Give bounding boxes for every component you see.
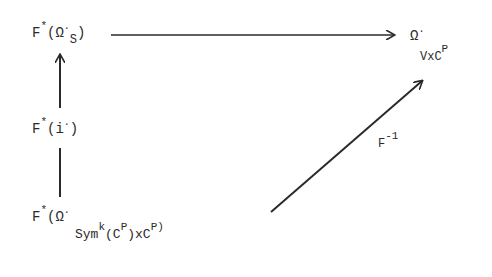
node-top-left: F*(Ω·S) xyxy=(32,26,85,40)
superscript-k: k xyxy=(98,221,105,233)
paren-close: ) xyxy=(77,25,85,41)
paren-close: ) xyxy=(157,221,164,233)
sym-text: Sym xyxy=(75,227,98,242)
subscript-s: S xyxy=(70,33,77,47)
node-bottom-left: F*(Ω· xyxy=(32,210,70,224)
diagonal-arrow xyxy=(271,81,422,212)
superscript-p: P xyxy=(121,221,128,233)
i-symbol: i xyxy=(55,121,63,137)
superscript-star: * xyxy=(40,20,47,32)
dot: · xyxy=(64,23,70,34)
superscript-star: * xyxy=(40,204,47,216)
dot: · xyxy=(64,207,70,218)
paren-open: ( xyxy=(105,227,113,242)
omega-symbol: Ω xyxy=(55,209,63,225)
c-symbol: C xyxy=(434,50,441,64)
diagonal-arrow-label: F-1 xyxy=(378,138,398,150)
dot: · xyxy=(418,26,424,37)
superscript-star: * xyxy=(40,116,47,128)
paren-close-times: )x xyxy=(127,227,143,242)
omega-symbol: Ω xyxy=(55,25,63,41)
node-top-right: Ω· xyxy=(410,29,424,43)
c-symbol: C xyxy=(143,227,151,242)
dot: · xyxy=(64,119,70,130)
superscript-p: P xyxy=(442,43,449,55)
node-bottom-left-subscript: Symk(CP)xCP) xyxy=(75,228,164,241)
node-top-right-subscript: VxCP xyxy=(420,51,448,63)
paren-close: ) xyxy=(70,121,78,137)
c-symbol: C xyxy=(113,227,121,242)
node-middle-left: F*(i·) xyxy=(32,122,78,136)
superscript-minus-one: -1 xyxy=(385,130,398,142)
